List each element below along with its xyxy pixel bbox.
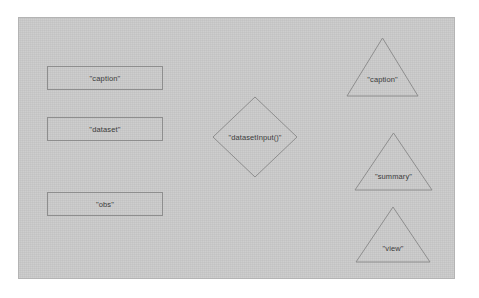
diamond-node-dataset-input[interactable]: "datasetInput()" [212, 96, 298, 178]
rectangle-node-label: "dataset" [89, 125, 120, 134]
triangle-node-caption[interactable]: "caption" [346, 37, 419, 97]
diamond-node-label: "datasetInput()" [212, 133, 298, 142]
diagram-canvas: "caption" "dataset" "obs" "datasetInput(… [0, 0, 479, 298]
triangle-node-summary[interactable]: "summary" [354, 132, 433, 191]
triangle-node-label: "caption" [346, 75, 419, 84]
triangle-shape [355, 206, 431, 263]
triangle-node-view[interactable]: "view" [355, 206, 431, 263]
rectangle-node-dataset[interactable]: "dataset" [47, 117, 163, 141]
triangle-shape [354, 132, 433, 191]
triangle-node-label: "view" [355, 244, 431, 253]
rectangle-node-caption[interactable]: "caption" [47, 66, 163, 90]
rectangle-node-label: "caption" [90, 74, 121, 83]
rectangle-node-label: "obs" [96, 200, 114, 209]
triangle-shape [346, 37, 419, 97]
triangle-node-label: "summary" [354, 172, 433, 181]
rectangle-node-obs[interactable]: "obs" [47, 192, 163, 216]
